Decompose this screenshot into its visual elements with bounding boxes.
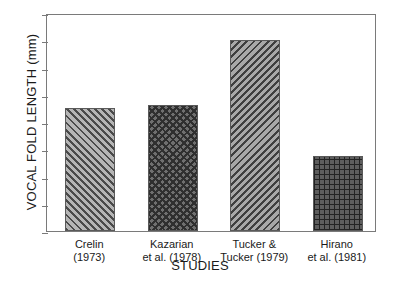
y-axis-tick-mark bbox=[42, 97, 48, 98]
plot-area bbox=[46, 14, 376, 232]
y-axis-tick-mark bbox=[42, 42, 48, 43]
x-axis-category-label: Hiranoet al. (1981) bbox=[282, 238, 392, 263]
bar-chart-figure: VOCAL FOLD LENGTH (mm) STUDIES 012345678… bbox=[0, 0, 400, 283]
y-axis-tick-mark bbox=[42, 206, 48, 207]
y-axis-title: VOCAL FOLD LENGTH (mm) bbox=[22, 7, 42, 237]
y-axis-tick-mark bbox=[42, 151, 48, 152]
category-label-line2: et al. (1981) bbox=[282, 251, 392, 264]
bar-1 bbox=[65, 108, 115, 231]
bar-3 bbox=[230, 40, 280, 231]
y-axis-tick-mark bbox=[42, 70, 48, 71]
y-axis-tick-mark bbox=[42, 15, 48, 16]
category-label-line1: Hirano bbox=[282, 238, 392, 251]
bar-4 bbox=[313, 156, 363, 231]
y-axis-tick-mark bbox=[42, 124, 48, 125]
y-axis-tick-mark bbox=[42, 233, 48, 234]
y-axis-tick-mark bbox=[42, 179, 48, 180]
bar-2 bbox=[148, 105, 198, 231]
